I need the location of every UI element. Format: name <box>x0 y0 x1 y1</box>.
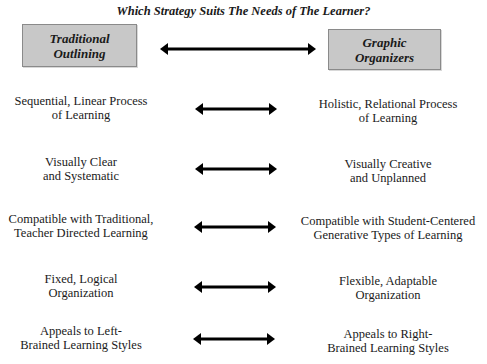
row-2-right: Visually Creative and Unplanned <box>294 157 482 185</box>
row-3-right: Compatible with Student-Centered Generat… <box>294 214 482 242</box>
row-5-left: Appeals to Left- Brained Learning Styles <box>0 324 162 352</box>
row-1-left: Sequential, Linear Process of Learning <box>0 94 162 122</box>
graphic-organizers-label: Graphic Organizers <box>355 35 414 65</box>
traditional-outlining-box: Traditional Outlining <box>22 24 137 67</box>
diagram-title: Which Strategy Suits The Needs of The Le… <box>0 4 487 19</box>
double-arrow-icon <box>160 43 316 55</box>
row-3-left: Compatible with Traditional, Teacher Dir… <box>0 212 162 240</box>
double-arrow-icon <box>195 163 277 175</box>
double-arrow-icon <box>194 281 276 293</box>
graphic-organizers-box: Graphic Organizers <box>328 29 441 70</box>
double-arrow-icon <box>193 333 275 345</box>
cut-off-text-fragment <box>0 360 60 364</box>
row-1-right: Holistic, Relational Process of Learning <box>294 97 482 125</box>
double-arrow-icon <box>194 221 276 233</box>
row-4-left: Fixed, Logical Organization <box>0 272 162 300</box>
row-5-right: Appeals to Right- Brained Learning Style… <box>294 327 482 355</box>
double-arrow-icon <box>195 103 277 115</box>
row-2-left: Visually Clear and Systematic <box>0 155 162 183</box>
traditional-outlining-label: Traditional Outlining <box>49 31 109 61</box>
row-4-right: Flexible, Adaptable Organization <box>294 274 482 302</box>
